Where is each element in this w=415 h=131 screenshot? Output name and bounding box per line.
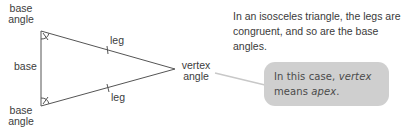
label-leg-top: leg	[110, 35, 124, 46]
callout-bubble: In this case, vertex means apex.	[264, 62, 389, 106]
label-line: angle	[6, 14, 36, 25]
label-vertex-angle: vertex angle	[178, 60, 214, 82]
callout-suffix: .	[336, 86, 339, 97]
callout-middle: means	[274, 86, 311, 97]
label-base-angle-top: base angle	[6, 3, 36, 25]
caption-text: In an isosceles triangle, the legs are c…	[233, 9, 413, 54]
callout-connector	[215, 73, 265, 85]
label-leg-bottom: leg	[111, 92, 125, 103]
label-base: base	[14, 61, 37, 72]
label-base-angle-bottom: base angle	[6, 105, 36, 127]
callout-prefix: In this case,	[274, 71, 339, 82]
top-leg-tick-icon	[107, 46, 108, 54]
callout-emphasis-apex: apex	[311, 86, 336, 97]
triangle	[41, 31, 175, 106]
label-line: angle	[6, 116, 36, 127]
label-line: angle	[178, 71, 214, 82]
callout-emphasis-vertex: vertex	[339, 71, 372, 82]
